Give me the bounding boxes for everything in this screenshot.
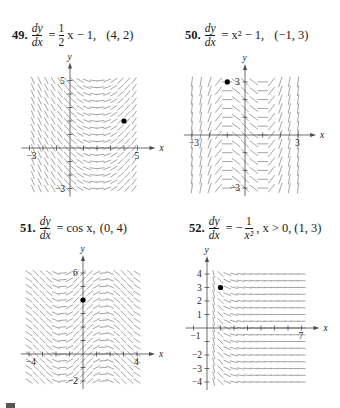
slope-segment xyxy=(218,359,224,365)
slope-segment xyxy=(230,374,238,376)
slope-segment xyxy=(218,318,224,324)
slope-segment xyxy=(230,287,238,289)
slope-segment xyxy=(224,306,231,309)
slope-segment xyxy=(218,339,224,345)
slope-segment xyxy=(218,345,224,351)
y-tick-label: −3 xyxy=(192,364,202,374)
initial-point-marker xyxy=(218,285,223,290)
slope-segment xyxy=(230,300,238,302)
slope-segment xyxy=(230,307,238,309)
slope-segment xyxy=(218,352,224,358)
slope-segment xyxy=(224,272,231,275)
slope-segment xyxy=(230,381,238,383)
slope-segment xyxy=(218,298,224,304)
slope-segment xyxy=(218,291,224,297)
slope-segment xyxy=(224,286,231,289)
slope-segment xyxy=(218,271,224,277)
slope-segment xyxy=(224,333,231,336)
slope-segment xyxy=(230,320,238,322)
slope-segment xyxy=(230,293,238,295)
slope-segment xyxy=(230,347,238,349)
slope-segment xyxy=(230,273,238,275)
slope-segment xyxy=(230,361,238,363)
slope-segment xyxy=(230,314,238,316)
slope-segment xyxy=(224,353,231,356)
slope-segment xyxy=(224,279,231,282)
slope-segment xyxy=(224,347,231,350)
x-axis-arrow-icon xyxy=(314,326,320,330)
slope-segment xyxy=(218,312,224,318)
slope-segment xyxy=(218,379,224,385)
y-tick-label: 4 xyxy=(197,269,202,279)
x-tick-label: −1 xyxy=(191,331,201,341)
y-tick-label: −2 xyxy=(192,350,202,360)
slope-segment xyxy=(224,360,231,363)
slope-segment xyxy=(230,280,238,282)
slope-field-52: xy−174321−2−3−4 xyxy=(0,0,340,408)
slope-segment xyxy=(218,278,224,284)
slope-segment xyxy=(224,380,231,383)
page-corner-mark xyxy=(6,403,15,408)
slope-segment xyxy=(224,340,231,343)
slope-segment xyxy=(230,341,238,343)
y-axis-arrow-icon xyxy=(205,256,209,262)
slope-segment xyxy=(230,334,238,336)
x-axis-label: x xyxy=(323,323,329,333)
slope-segment xyxy=(218,366,224,372)
y-tick-label: 3 xyxy=(197,283,202,293)
x-tick-label: 7 xyxy=(299,331,304,341)
y-tick-label: 1 xyxy=(197,310,202,320)
y-tick-label: 2 xyxy=(197,296,202,306)
slope-segment xyxy=(224,313,231,316)
slope-segment xyxy=(218,372,224,378)
slope-segment xyxy=(224,299,231,302)
slope-segment xyxy=(218,332,224,338)
y-axis-label: y xyxy=(204,245,210,255)
slope-segment xyxy=(230,354,238,356)
slope-segment xyxy=(224,320,231,323)
slope-segment xyxy=(230,368,238,370)
slope-segment xyxy=(218,305,224,311)
slope-segment xyxy=(224,293,231,296)
slope-segment xyxy=(224,367,231,370)
y-tick-label: −4 xyxy=(192,377,202,387)
slope-segment xyxy=(224,374,231,377)
